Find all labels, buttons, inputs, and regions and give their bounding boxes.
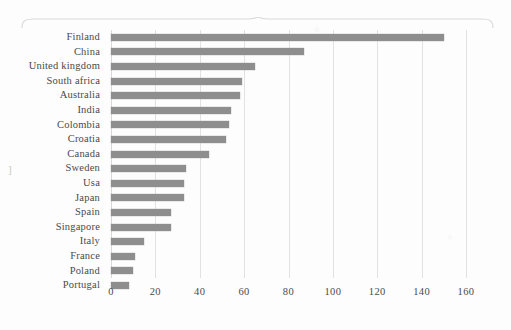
bar-series bbox=[111, 30, 466, 278]
bar bbox=[111, 107, 231, 114]
y-axis-label: United kingdom bbox=[0, 59, 105, 74]
bar-row bbox=[111, 191, 466, 206]
bar bbox=[111, 48, 304, 55]
bar-row bbox=[111, 88, 466, 103]
bar-row bbox=[111, 264, 466, 279]
bar bbox=[111, 253, 135, 260]
y-axis-label: Colombia bbox=[0, 118, 105, 133]
y-axis-label: Sweden bbox=[0, 161, 105, 176]
bar bbox=[111, 78, 242, 85]
bar-chart-figure: ] FinlandChinaUnited kingdomSouth africa… bbox=[0, 0, 511, 330]
y-axis-label: Spain bbox=[0, 205, 105, 220]
bar-row bbox=[111, 118, 466, 133]
bar-row bbox=[111, 103, 466, 118]
bar-row bbox=[111, 220, 466, 235]
bar-row bbox=[111, 74, 466, 89]
bar bbox=[111, 151, 209, 158]
x-axis-tick: 160 bbox=[458, 286, 475, 297]
bar bbox=[111, 267, 133, 274]
bar bbox=[111, 92, 240, 99]
bar-row bbox=[111, 205, 466, 220]
bar bbox=[111, 209, 171, 216]
bar bbox=[111, 136, 226, 143]
bar bbox=[111, 194, 184, 201]
x-axis-tick: 140 bbox=[413, 286, 430, 297]
y-axis-label: France bbox=[0, 249, 105, 264]
y-axis-category-labels: FinlandChinaUnited kingdomSouth africaAu… bbox=[0, 30, 105, 293]
x-axis-tick-labels: 020406080100120140160 bbox=[111, 282, 466, 304]
bar-row bbox=[111, 59, 466, 74]
bar bbox=[111, 238, 144, 245]
bar bbox=[111, 34, 444, 41]
y-axis-label: South africa bbox=[0, 74, 105, 89]
y-axis-label: Canada bbox=[0, 147, 105, 162]
y-axis-label: Portugal bbox=[0, 278, 105, 293]
bar-row bbox=[111, 249, 466, 264]
y-axis-label: Italy bbox=[0, 234, 105, 249]
y-axis-label: Poland bbox=[0, 264, 105, 279]
y-axis-label: Finland bbox=[0, 30, 105, 45]
bar-row bbox=[111, 147, 466, 162]
bar bbox=[111, 63, 255, 70]
bar-row bbox=[111, 45, 466, 60]
x-axis-tick: 80 bbox=[283, 286, 294, 297]
x-axis-tick: 0 bbox=[108, 286, 114, 297]
x-axis-tick: 120 bbox=[369, 286, 386, 297]
y-axis-label: Usa bbox=[0, 176, 105, 191]
y-axis-label: Singapore bbox=[0, 220, 105, 235]
bar-row bbox=[111, 30, 466, 45]
bar bbox=[111, 165, 186, 172]
bar-row bbox=[111, 161, 466, 176]
x-axis-tick: 60 bbox=[238, 286, 249, 297]
top-bracket-decoration bbox=[20, 17, 495, 29]
y-axis-label: Japan bbox=[0, 191, 105, 206]
bar-row bbox=[111, 176, 466, 191]
bar-row bbox=[111, 132, 466, 147]
y-axis-label: Croatia bbox=[0, 132, 105, 147]
y-axis-label: Australia bbox=[0, 88, 105, 103]
x-axis-tick: 100 bbox=[324, 286, 341, 297]
y-axis-label: India bbox=[0, 103, 105, 118]
x-axis-tick: 40 bbox=[194, 286, 205, 297]
bar bbox=[111, 180, 184, 187]
plot-area bbox=[111, 30, 466, 278]
x-axis-tick: 20 bbox=[150, 286, 161, 297]
bar bbox=[111, 224, 171, 231]
y-axis-label: China bbox=[0, 45, 105, 60]
gridline bbox=[466, 30, 467, 278]
bar bbox=[111, 121, 229, 128]
bar-row bbox=[111, 234, 466, 249]
